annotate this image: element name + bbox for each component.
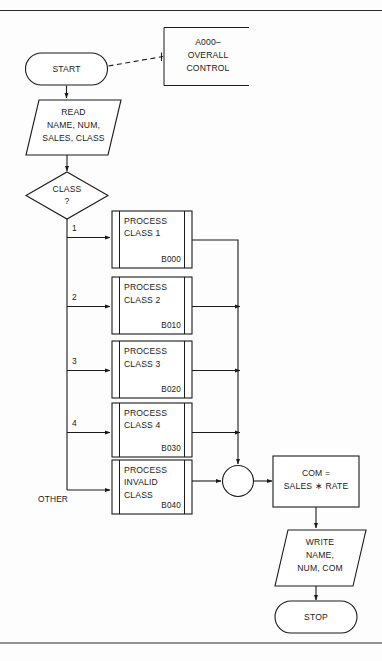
write-line-1: WRITE [306,537,335,547]
process-class-4-node: PROCESS CLASS 4 B030 [112,403,192,457]
annotation-line-2: OVERALL [188,50,229,60]
process-class-3-line-1: PROCESS [124,346,167,356]
merge-path-from-class-1 [192,240,238,464]
process-class-2-ref: B010 [161,321,181,330]
process-class-3-line-2: CLASS 3 [124,359,160,369]
annotation-line-3: CONTROL [186,63,229,73]
process-class-3-ref: B020 [161,385,181,394]
process-class-2-node: PROCESS CLASS 2 B010 [112,277,192,334]
process-invalid-class-node: PROCESS INVALID CLASS B040 [112,460,192,514]
process-class-1-line-2: CLASS 1 [124,228,160,238]
read-line-2: NAME, NUM, [47,120,100,130]
read-line-1: READ [61,107,85,117]
branch-label-2: 2 [72,292,77,302]
process-class-4-ref: B030 [161,444,181,453]
start-label: START [52,64,81,74]
process-class-4-line-2: CLASS 4 [124,420,160,430]
junction-connector-circle [223,466,254,497]
annotation-dashed-link [109,57,164,67]
process-class-3-node: PROCESS CLASS 3 B020 [112,341,192,398]
stop-label: STOP [304,612,328,622]
branch-label-4: 4 [72,418,77,428]
process-class-4-line-1: PROCESS [124,408,167,418]
branch-label-other: OTHER [38,494,68,504]
process-invalid-class-line-3: CLASS [124,490,153,500]
process-invalid-class-line-2: INVALID [124,477,158,487]
annotation-line-1: A000– [195,37,221,47]
decision-line-2: ? [65,196,70,206]
write-line-3: NUM, COM [297,563,343,573]
branch-label-3: 3 [72,356,77,366]
decision-line-1: CLASS [53,184,82,194]
branch-label-1: 1 [72,223,77,233]
process-class-1-ref: B000 [161,255,181,264]
flowchart-page: START A000– OVERALL CONTROL READ NAME, N… [0,0,382,661]
process-class-1-node: PROCESS CLASS 1 B000 [112,211,192,268]
process-class-1-line-1: PROCESS [124,216,167,226]
read-line-3: SALES, CLASS [42,133,105,143]
flowchart-canvas: START A000– OVERALL CONTROL READ NAME, N… [0,0,382,661]
process-invalid-class-line-1: PROCESS [124,465,167,475]
write-line-2: NAME, [306,550,334,560]
process-class-2-line-1: PROCESS [124,282,167,292]
process-invalid-class-ref: B040 [161,501,181,510]
compute-line-1: COM = [302,468,330,478]
compute-line-2: SALES ∗ RATE [284,481,349,491]
process-class-2-line-2: CLASS 2 [124,295,160,305]
